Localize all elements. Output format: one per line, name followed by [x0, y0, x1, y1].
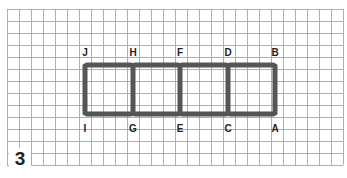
label-E: E: [177, 124, 184, 134]
puzzle-number: 3: [9, 148, 31, 169]
label-J: J: [82, 48, 88, 58]
label-C: C: [224, 124, 231, 134]
label-D: D: [224, 48, 231, 58]
label-I: I: [84, 124, 87, 134]
matchstick-puzzle: J H F D B I G E C A 3: [0, 0, 347, 178]
label-G: G: [129, 124, 137, 134]
label-A: A: [271, 124, 278, 134]
label-H: H: [129, 48, 136, 58]
label-B: B: [271, 48, 278, 58]
matchstick-squares: [0, 0, 347, 178]
label-F: F: [177, 48, 183, 58]
